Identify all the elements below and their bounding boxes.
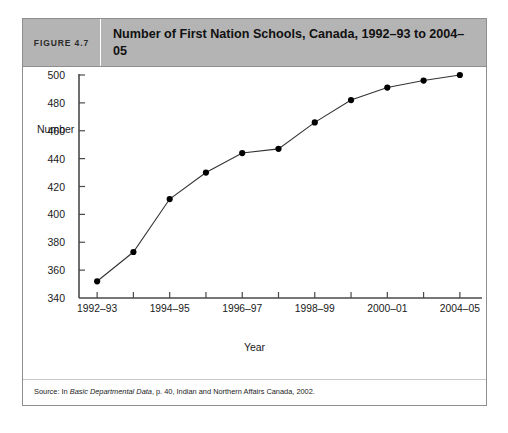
x-tick-label: 2000–01 [367,303,407,314]
figure-title: Number of First Nation Schools, Canada, … [113,26,476,58]
figure-number-cell: FIGURE 4.7 [23,19,101,66]
x-tick-label: 2004–05 [440,303,480,314]
data-point-marker [312,119,318,125]
x-tick-label: 1992–93 [77,303,117,314]
data-point-marker [457,72,463,78]
data-point-marker [384,84,390,90]
data-point-marker [94,278,100,284]
source-suffix: , p. 40, Indian and Northern Affairs Can… [152,387,315,396]
data-point-marker [130,249,136,255]
x-tick-label: 1996–97 [222,303,262,314]
x-axis-title: Year [23,341,486,353]
source-divider [23,379,486,380]
source-prefix: Source: In [34,387,70,396]
chart-body: Number 340360380400420440460480500 1992–… [23,67,486,379]
figure-header: FIGURE 4.7 Number of First Nation School… [23,19,486,67]
source-publication-title: Basic Departmental Data [70,387,152,396]
data-point-marker [167,196,173,202]
x-tick-label: 1994–95 [150,303,190,314]
data-point-marker [275,146,281,152]
data-point-marker [239,150,245,156]
data-point-marker [203,169,209,175]
figure-title-cell: Number of First Nation Schools, Canada, … [101,19,486,66]
x-tick-label: 1998–99 [295,303,335,314]
data-point-marker [348,97,354,103]
figure-number-label: FIGURE 4.7 [34,38,89,48]
figure-panel: FIGURE 4.7 Number of First Nation School… [22,18,487,406]
source-note: Source: In Basic Departmental Data, p. 4… [34,387,476,397]
line-chart: Number 340360380400420440460480500 1992–… [23,67,486,379]
data-point-marker [420,77,426,83]
chart-plot-area [23,67,486,379]
